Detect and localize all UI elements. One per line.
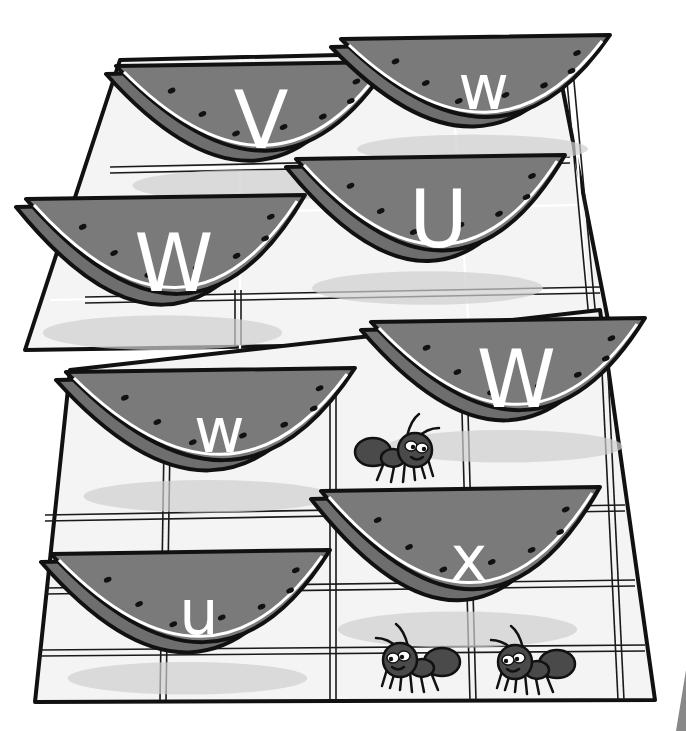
watermelon-letter: w — [194, 394, 245, 467]
watermelon-letter: w — [458, 51, 509, 124]
page-edge — [676, 670, 686, 731]
picnic-scene: VwUWWwxu — [0, 0, 686, 731]
watermelon-letter: x — [451, 522, 488, 595]
watermelon-letter: W — [134, 217, 213, 310]
watermelon-letter: W — [477, 333, 556, 426]
watermelon-letter: u — [179, 576, 218, 649]
watermelon-letter: V — [234, 74, 289, 167]
watermelon-letter: U — [409, 173, 468, 266]
